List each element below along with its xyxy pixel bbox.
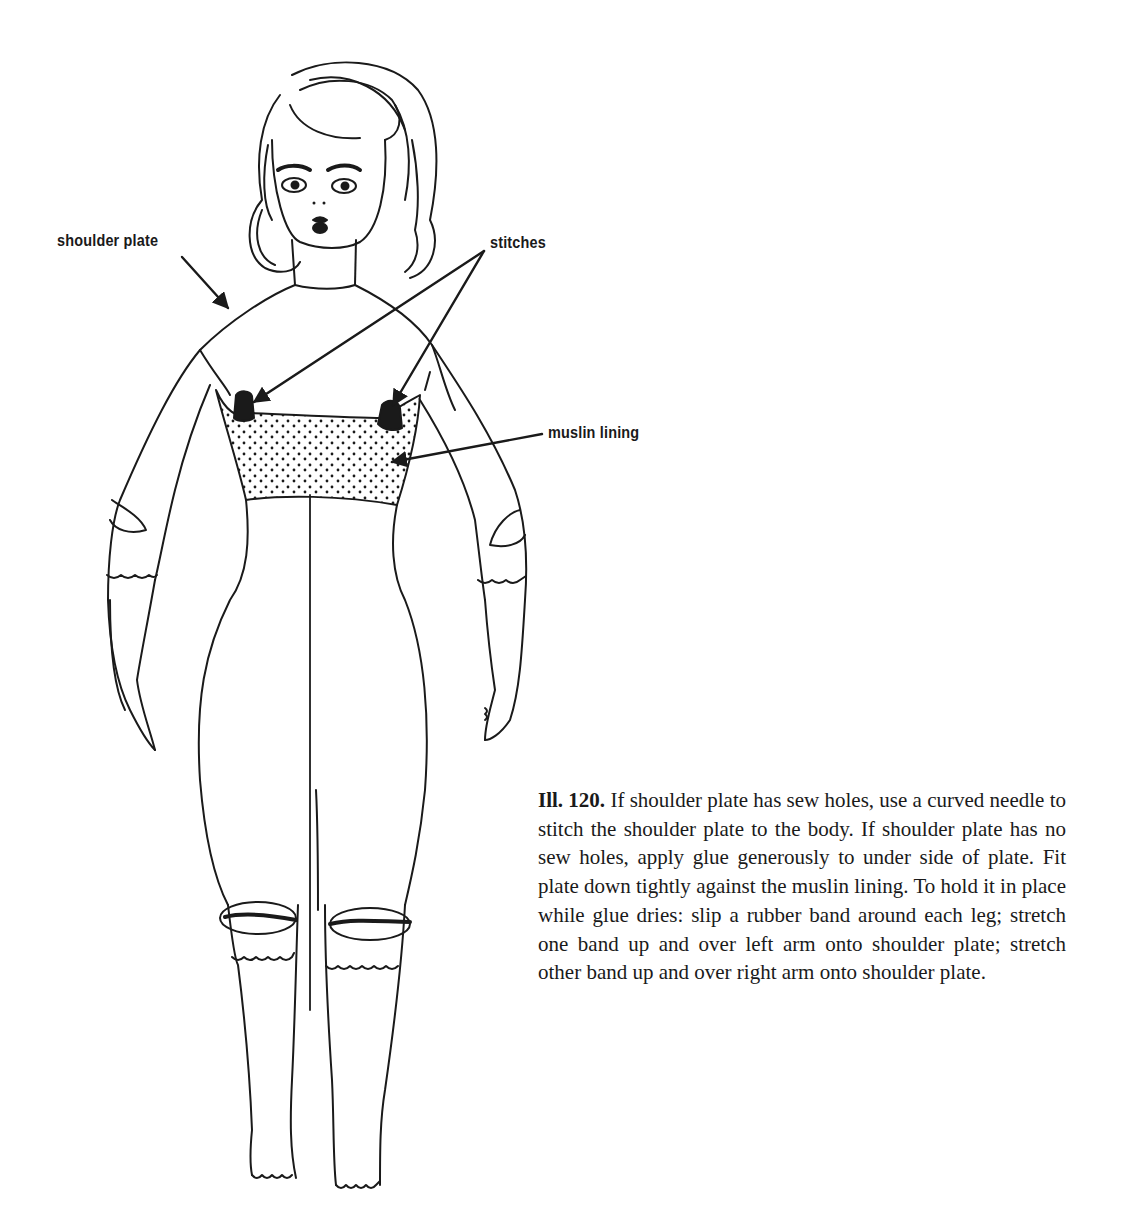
body [199, 495, 427, 1188]
stitches-arrow-right [393, 251, 484, 405]
shoulder-plate-edge-left [200, 350, 230, 395]
shoulder-plate-edge-right [425, 372, 430, 390]
figure-caption: Ill. 120. If shoulder plate has sew hole… [538, 786, 1066, 987]
doll-illustration [0, 0, 1134, 1226]
caption-number: Ill. 120. [538, 788, 605, 812]
label-stitches: stitches [490, 233, 546, 253]
arms [107, 345, 526, 750]
face [272, 140, 386, 248]
label-muslin-lining: muslin lining [548, 423, 639, 443]
stitches-arrow-left [254, 251, 484, 402]
shoulder-plate [200, 285, 455, 410]
label-shoulder-plate: shoulder plate [57, 231, 158, 251]
caption-text: If shoulder plate has sew holes, use a c… [538, 788, 1066, 984]
shoulder-plate-arrow [182, 257, 228, 308]
